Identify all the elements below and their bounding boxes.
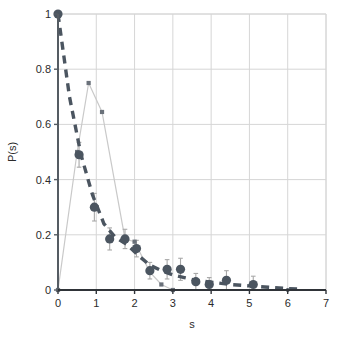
data-point-marker [222, 276, 231, 285]
histogram-marker [100, 110, 104, 114]
histogram-marker [159, 282, 163, 286]
chart-container: 0123456700.20.40.60.81sP(s) [0, 0, 342, 342]
x-axis-tick-label: 2 [132, 297, 138, 309]
data-point-marker [90, 203, 99, 212]
x-axis-tick-label: 4 [208, 297, 214, 309]
y-axis-title: P(s) [6, 142, 18, 162]
exponential-fit-curve [58, 14, 303, 289]
y-axis-tick-label: 0.2 [36, 229, 51, 241]
x-axis-tick-label: 6 [285, 297, 291, 309]
data-point-marker [105, 234, 114, 243]
data-point-marker [176, 265, 185, 274]
x-axis-tick-label: 5 [246, 297, 252, 309]
y-axis-tick-label: 0.4 [36, 174, 51, 186]
data-point-marker [205, 280, 214, 289]
x-axis-tick-label: 7 [323, 297, 329, 309]
y-axis-tick-label: 0.8 [36, 63, 51, 75]
histogram-marker [132, 240, 136, 244]
x-axis-tick-label: 1 [93, 297, 99, 309]
data-point-marker [120, 234, 129, 243]
y-axis-tick-label: 1 [45, 8, 51, 20]
x-axis-tick-label: 0 [55, 297, 61, 309]
data-point-marker [145, 266, 154, 275]
y-axis-tick-label: 0 [45, 284, 51, 296]
data-point-marker [249, 280, 258, 289]
x-axis-tick-label: 3 [170, 297, 176, 309]
histogram-marker [87, 81, 91, 85]
x-axis-title: s [189, 318, 195, 330]
data-point-marker [163, 265, 172, 274]
chart-plot: 0123456700.20.40.60.81sP(s) [0, 0, 342, 342]
data-point-marker [74, 150, 83, 159]
y-axis-tick-label: 0.6 [36, 118, 51, 130]
data-point-marker [191, 277, 200, 286]
data-point-marker [132, 244, 141, 253]
histogram-line [58, 83, 173, 290]
